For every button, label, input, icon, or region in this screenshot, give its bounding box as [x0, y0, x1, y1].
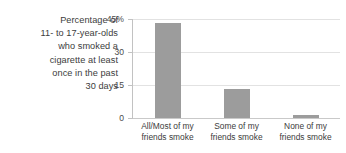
gridline — [133, 118, 340, 119]
y-axis-tick-labels: 0153045% — [92, 0, 124, 153]
y-axis-tick-label: 30 — [94, 48, 124, 57]
y-axis-tick-label: 45% — [94, 15, 124, 24]
x-axis-category-label: None of myfriends smoke — [271, 121, 340, 143]
x-axis-label-line: friends smoke — [133, 132, 202, 143]
x-axis-category-label: Some of myfriends smoke — [202, 121, 271, 143]
chart-figure: Percentage of 11- to 17-year-olds who sm… — [0, 0, 346, 153]
plot-area — [133, 19, 340, 118]
x-axis-label-line: All/Most of my — [133, 121, 202, 132]
bar[interactable] — [293, 115, 319, 118]
y-axis-tick-label: 15 — [94, 81, 124, 90]
y-axis-tick-label: 0 — [94, 114, 124, 123]
x-axis-label-line: Some of my — [202, 121, 271, 132]
bar[interactable] — [224, 89, 250, 118]
gridline — [133, 19, 340, 20]
x-axis-label-line: friends smoke — [271, 132, 340, 143]
x-axis-category-label: All/Most of myfriends smoke — [133, 121, 202, 143]
bar[interactable] — [155, 23, 181, 118]
x-axis-label-line: None of my — [271, 121, 340, 132]
x-axis-label-line: friends smoke — [202, 132, 271, 143]
x-axis-category-labels: All/Most of myfriends smokeSome of myfri… — [133, 121, 340, 151]
